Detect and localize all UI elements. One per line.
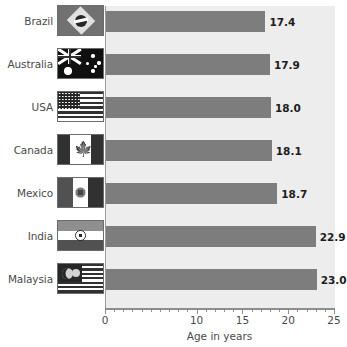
- flag-brazil-icon: [57, 5, 104, 36]
- bar-value-label: 23.0: [321, 274, 347, 286]
- plot-area: [105, 6, 335, 308]
- x-tick-minor: [215, 308, 216, 312]
- category-label: Brazil: [24, 15, 57, 27]
- bar[interactable]: [106, 226, 316, 247]
- flag-australia-icon: [57, 48, 104, 79]
- x-tick-label: 10: [190, 314, 203, 326]
- x-tick-minor: [187, 308, 188, 312]
- category-row-canada: Canada 🍁: [0, 134, 104, 165]
- x-tick-minor: [279, 308, 280, 312]
- bar[interactable]: [106, 54, 270, 75]
- x-tick-minor: [169, 308, 170, 312]
- x-tick-minor: [132, 308, 133, 312]
- x-tick-minor: [178, 308, 179, 312]
- x-tick-label: 20: [282, 314, 295, 326]
- flag-usa-icon: [57, 91, 104, 122]
- flag-canada-icon: 🍁: [57, 134, 104, 165]
- category-label: Malaysia: [8, 273, 57, 285]
- category-row-india: India: [0, 220, 104, 251]
- x-axis: [105, 308, 334, 310]
- x-axis-title: Age in years: [105, 330, 334, 342]
- bar-value-label: 17.4: [269, 16, 295, 28]
- bar-value-label: 22.9: [320, 231, 346, 243]
- x-tick-minor: [160, 308, 161, 312]
- x-tick-minor: [270, 308, 271, 312]
- category-row-malaysia: Malaysia: [0, 263, 104, 294]
- x-tick-minor: [224, 308, 225, 312]
- flag-mexico-icon: [57, 177, 104, 208]
- x-tick-minor: [114, 308, 115, 312]
- bar[interactable]: [106, 269, 317, 290]
- x-tick-minor: [261, 308, 262, 312]
- category-row-usa: USA: [0, 91, 104, 122]
- x-tick-minor: [307, 308, 308, 312]
- flag-malaysia-icon: [57, 263, 104, 294]
- x-tick-minor: [206, 308, 207, 312]
- category-row-australia: Australia: [0, 48, 104, 79]
- category-row-mexico: Mexico: [0, 177, 104, 208]
- bar-value-label: 18.1: [276, 145, 302, 157]
- bar[interactable]: [106, 11, 265, 32]
- category-row-brazil: Brazil: [0, 5, 104, 36]
- bar-value-label: 18.0: [275, 102, 301, 114]
- x-tick-minor: [123, 308, 124, 312]
- x-tick-minor: [325, 308, 326, 312]
- category-label: Mexico: [17, 187, 57, 199]
- x-tick-minor: [142, 308, 143, 312]
- category-label: Australia: [7, 58, 57, 70]
- x-tick-minor: [151, 308, 152, 312]
- x-tick-minor: [297, 308, 298, 312]
- bar[interactable]: [106, 140, 272, 161]
- x-tick-minor: [316, 308, 317, 312]
- category-label: USA: [32, 101, 57, 113]
- x-tick-minor: [252, 308, 253, 312]
- flag-india-icon: [57, 220, 104, 251]
- bar[interactable]: [106, 183, 277, 204]
- bar-value-label: 18.7: [281, 188, 307, 200]
- category-label: India: [28, 230, 57, 242]
- bar-value-label: 17.9: [274, 59, 300, 71]
- category-label: Canada: [14, 144, 57, 156]
- bar[interactable]: [106, 97, 271, 118]
- x-tick-label: 0: [102, 314, 109, 326]
- x-tick-label: 15: [236, 314, 249, 326]
- x-tick-label: 25: [327, 314, 340, 326]
- x-tick-minor: [233, 308, 234, 312]
